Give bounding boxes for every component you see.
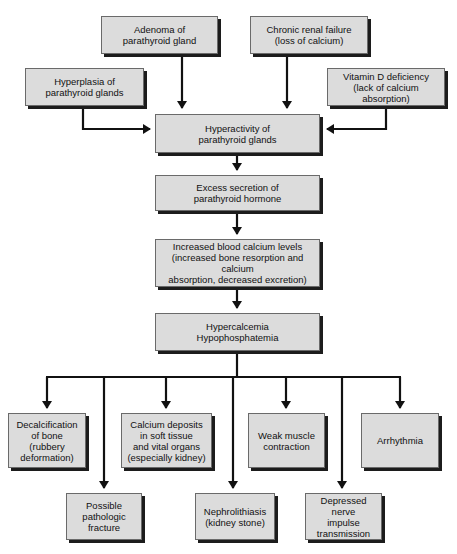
chronic-renal-failure-box: Chronic renal failure (loss of calcium) [250,16,368,54]
arrhythmia-box: Arrhythmia [361,413,439,468]
hypercalcemia-box: Hypercalcemia Hypophosphatemia [155,313,320,351]
hyperplasia-box: Hyperplasia of parathyroid glands [25,68,144,106]
hyperactivity-box: Hyperactivity of parathyroid glands [155,114,320,153]
weak-muscle-box: Weak muscle contraction [248,413,325,468]
calcium-deposits-box: Calcium deposits in soft tissue and vita… [121,413,212,468]
excess-secretion-box: Excess secretion of parathyroid hormone [155,175,320,211]
depressed-nerve-box: Depressed nerve impulse transmission [305,493,382,540]
increased-blood-calcium-box: Increased blood calcium levels (increase… [155,239,320,287]
pathologic-fracture-box: Possible pathologic fracture [66,493,142,540]
decalcification-box: Decalcification of bone (rubbery deforma… [8,413,86,468]
nephrolithiasis-box: Nephrolithiasis (kidney stone) [195,493,275,540]
adenoma-box: Adenoma of parathyroid gland [101,16,218,54]
vitamin-d-deficiency-box: Vitamin D deficiency (lack of calcium ab… [327,68,445,106]
